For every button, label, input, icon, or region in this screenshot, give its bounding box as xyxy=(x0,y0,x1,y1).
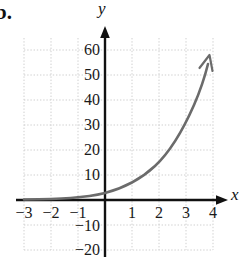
y-tick-label-60: 60 xyxy=(84,42,100,58)
x-tick-label-minus-2: −2 xyxy=(42,205,59,221)
x-tick-label-3: 3 xyxy=(182,205,190,221)
y-tick-label-minus-20: −20 xyxy=(75,242,100,257)
x-tick-label-minus-1: −1 xyxy=(69,205,86,221)
x-tick-label-1: 1 xyxy=(128,205,136,221)
y-tick-label-20: 20 xyxy=(84,142,100,158)
x-tick-label-2: 2 xyxy=(155,205,163,221)
y-tick-label-40: 40 xyxy=(84,92,100,108)
x-axis-arrowhead xyxy=(216,195,228,205)
exponential-curve xyxy=(24,55,213,200)
x-tick-label-minus-3: −3 xyxy=(15,205,32,221)
y-tick-label-30: 30 xyxy=(84,117,100,133)
y-tick-label-10: 10 xyxy=(84,167,100,183)
y-axis-arrowhead xyxy=(100,26,110,38)
y-axis xyxy=(100,26,110,257)
y-tick-label-50: 50 xyxy=(84,67,100,83)
figure-container: b. xyxy=(0,0,247,257)
x-axis-label: x xyxy=(231,186,239,203)
y-axis-label: y xyxy=(98,0,106,17)
x-tick-label-4: 4 xyxy=(209,205,217,221)
